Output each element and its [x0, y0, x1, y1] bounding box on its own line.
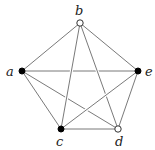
- vertex-label-a: a: [6, 64, 14, 79]
- vertex-a: [19, 68, 25, 74]
- vertex-label-e: e: [145, 64, 153, 79]
- edge-a-c: [22, 71, 61, 129]
- vertex-c: [58, 126, 64, 132]
- vertex-e: [135, 68, 141, 74]
- vertex-label-d: d: [115, 134, 123, 149]
- edges: [22, 23, 138, 129]
- graph-diagram: a b c d e: [0, 0, 155, 150]
- vertex-d: [115, 126, 121, 132]
- vertex-label-b: b: [75, 3, 83, 18]
- edge-b-c: [61, 23, 80, 129]
- vertex-label-c: c: [56, 134, 64, 149]
- vertex-b: [77, 20, 83, 26]
